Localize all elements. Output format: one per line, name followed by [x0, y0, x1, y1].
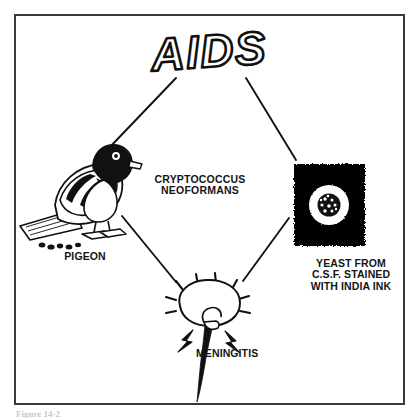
label-yeast-india-ink: YEAST FROM C.S.F. STAINED WITH INDIA INK — [298, 258, 404, 292]
brain-meningitis-icon — [166, 273, 250, 402]
clipped-caption: Figure 14-2 — [16, 409, 136, 418]
edge-pigeon-meningitis — [122, 216, 176, 282]
edge-yeast-meningitis — [243, 218, 289, 281]
label-pigeon: PIGEON — [40, 251, 130, 262]
figure-panel: AIDS CRYPTOCOCCUS NEOFORMANS PIGEON YEAS… — [0, 0, 419, 420]
label-meningitis: MENINGITIS — [196, 348, 300, 359]
india-ink-preparation-icon — [294, 164, 365, 246]
droppings-icon — [39, 243, 81, 250]
label-cryptococcus-neoformans: CRYPTOCOCCUS NEOFORMANS — [130, 174, 270, 197]
edge-aids-pigeon — [109, 78, 176, 148]
page-title-text: AIDS — [148, 22, 268, 80]
edge-aids-yeast — [246, 78, 296, 160]
pigeon-icon — [20, 145, 142, 250]
page-title: AIDS — [133, 22, 285, 80]
